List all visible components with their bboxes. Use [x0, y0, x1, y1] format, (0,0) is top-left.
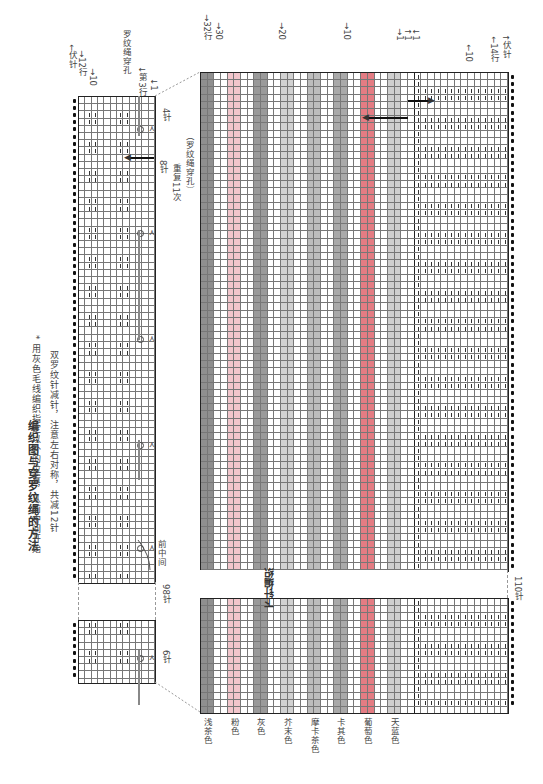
bind-off-dot — [511, 499, 514, 503]
bind-off-dot — [511, 103, 514, 107]
purl-mark — [465, 348, 466, 352]
purl-mark — [418, 291, 419, 295]
grid-row-line — [201, 534, 508, 541]
purl-mark — [438, 463, 439, 467]
purl-mark — [505, 463, 506, 467]
cable-cord — [138, 440, 140, 480]
grid-row-line — [201, 145, 508, 152]
purl-mark — [418, 377, 419, 381]
purl-mark — [418, 492, 419, 496]
purl-mark — [431, 622, 432, 626]
purl-mark — [458, 240, 459, 244]
bind-off-dot — [511, 370, 514, 374]
purl-mark — [418, 435, 419, 439]
purl-mark — [438, 291, 439, 295]
bind-off-dot — [511, 478, 514, 482]
purl-mark — [431, 680, 432, 684]
grid-row-line — [201, 368, 508, 375]
purl-mark — [491, 355, 492, 359]
purl-mark — [418, 463, 419, 467]
bind-off-dot — [511, 680, 514, 684]
grid-row-line — [201, 167, 508, 174]
purl-mark — [485, 96, 486, 100]
purl-mark — [418, 514, 419, 518]
purl-mark — [465, 615, 466, 619]
purl-mark — [505, 680, 506, 684]
grid-row-line — [201, 390, 508, 397]
purl-mark — [431, 550, 432, 554]
bind-off-dot — [511, 673, 514, 677]
purl-mark — [431, 154, 432, 158]
purl-mark — [498, 528, 499, 532]
purl-mark — [431, 269, 432, 273]
purl-mark — [465, 147, 466, 151]
purl-mark — [505, 673, 506, 677]
purl-mark — [478, 384, 479, 388]
purl-mark — [418, 673, 419, 677]
purl-mark — [458, 557, 459, 561]
purl-mark — [418, 427, 419, 431]
purl-mark — [445, 147, 446, 151]
purl-mark — [465, 298, 466, 302]
purl-mark — [458, 269, 459, 273]
purl-mark — [485, 557, 486, 561]
purl-mark — [471, 644, 472, 648]
color-label: 芥末色 — [281, 718, 293, 745]
purl-mark — [425, 463, 426, 467]
grid-row-line — [201, 383, 508, 390]
purl-mark — [451, 240, 452, 244]
purl-mark — [498, 291, 499, 295]
bind-off-dot — [511, 319, 514, 323]
purl-mark — [478, 175, 479, 179]
grid-row-line — [201, 131, 508, 138]
grid-row-line — [201, 433, 508, 440]
purl-mark — [478, 377, 479, 381]
purl-mark — [498, 298, 499, 302]
purl-mark — [478, 348, 479, 352]
purl-mark — [418, 298, 419, 302]
purl-mark — [465, 557, 466, 561]
purl-mark — [458, 118, 459, 122]
purl-mark — [445, 355, 446, 359]
purl-mark — [478, 673, 479, 677]
grid-row-line — [201, 246, 508, 253]
purl-mark — [438, 298, 439, 302]
purl-mark — [491, 175, 492, 179]
purl-mark — [491, 435, 492, 439]
purl-mark — [465, 233, 466, 237]
purl-mark — [458, 348, 459, 352]
purl-mark — [445, 348, 446, 352]
cable-cord — [138, 230, 140, 340]
purl-mark — [485, 183, 486, 187]
purl-mark — [471, 557, 472, 561]
purl-mark — [418, 665, 419, 669]
purl-mark — [425, 521, 426, 525]
purl-mark — [471, 528, 472, 532]
grid-row-line — [201, 318, 508, 325]
purl-mark — [491, 492, 492, 496]
grid-row-line — [201, 188, 508, 195]
grid-row-line — [201, 296, 508, 303]
purl-mark — [485, 377, 486, 381]
purl-mark — [471, 262, 472, 266]
purl-mark — [438, 319, 439, 323]
purl-mark — [465, 125, 466, 129]
purl-mark — [418, 233, 419, 237]
purl-mark — [491, 211, 492, 215]
rib-row-label-10: ←10 — [464, 44, 474, 62]
purl-mark — [505, 384, 506, 388]
bind-off-dot — [511, 363, 514, 367]
bind-off-dot — [511, 543, 514, 547]
purl-mark — [451, 492, 452, 496]
purl-mark — [418, 334, 419, 338]
purl-mark — [431, 319, 432, 323]
purl-mark — [485, 204, 486, 208]
purl-mark — [445, 442, 446, 446]
decrease-icon: ⋏ — [149, 543, 155, 552]
grid-row-line — [201, 354, 508, 361]
purl-mark — [438, 269, 439, 273]
purl-mark — [445, 291, 446, 295]
grid-row-line — [201, 512, 508, 519]
rib-bind-off-label: ↑伏针 — [500, 34, 512, 59]
arrow-line — [368, 117, 408, 119]
